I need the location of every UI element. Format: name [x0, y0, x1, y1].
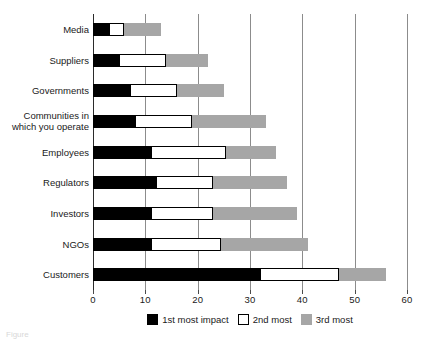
bar-row: [93, 54, 407, 67]
bar-segment: [130, 84, 177, 97]
bar-row: [93, 238, 407, 251]
x-axis-tick-label: 60: [387, 294, 427, 305]
chart-plot-area: [93, 14, 407, 290]
stacked-bar-chart: MediaSuppliersGovernmentsCommunities in …: [0, 0, 434, 344]
bar-segment: [260, 268, 339, 281]
bar-segment: [213, 207, 297, 220]
legend-swatch-icon: [301, 314, 312, 325]
bar-segment: [192, 115, 265, 128]
bar-segment: [151, 207, 214, 220]
bar-segment: [221, 238, 307, 251]
bar-segment: [124, 23, 161, 36]
legend-swatch-icon: [238, 314, 249, 325]
bar-row: [93, 176, 407, 189]
category-label: Governments: [3, 85, 89, 96]
bar-segment: [93, 54, 119, 67]
legend-item: 1st most impact: [147, 314, 229, 325]
bar-segment: [93, 146, 151, 159]
legend-label: 3rd most: [316, 314, 353, 325]
bar-segment: [151, 238, 222, 251]
bar-segment: [151, 146, 227, 159]
bar-segment: [93, 207, 151, 220]
bar-segment: [93, 176, 156, 189]
bar-segment: [166, 54, 208, 67]
bar-segment: [93, 238, 151, 251]
legend-item: 2nd most: [238, 314, 292, 325]
gridline-60: [407, 14, 408, 290]
category-label: Employees: [3, 147, 89, 158]
bar-segment: [93, 115, 135, 128]
category-label: Suppliers: [3, 55, 89, 66]
legend-swatch-icon: [147, 314, 158, 325]
category-label: Regulators: [3, 177, 89, 188]
category-label: NGOs: [3, 239, 89, 250]
bar-segment: [119, 54, 166, 67]
x-axis-tick-label: 0: [73, 294, 113, 305]
figure-caption: Figure: [6, 330, 29, 339]
legend-label: 2nd most: [253, 314, 292, 325]
bar-row: [93, 268, 407, 281]
bar-row: [93, 146, 407, 159]
bar-row: [93, 207, 407, 220]
legend-item: 3rd most: [301, 314, 353, 325]
bar-segment: [109, 23, 125, 36]
category-label: Investors: [3, 208, 89, 219]
x-axis-tick-label: 30: [230, 294, 270, 305]
bar-segment: [135, 115, 193, 128]
bar-row: [93, 115, 407, 128]
category-label: Communities in which you operate: [3, 110, 89, 132]
x-axis-tick-label: 40: [282, 294, 322, 305]
bar-segment: [226, 146, 276, 159]
bar-segment: [213, 176, 286, 189]
chart-legend: 1st most impact2nd most3rd most: [93, 311, 407, 327]
bar-segment: [339, 268, 386, 281]
x-axis-tick-label: 50: [335, 294, 375, 305]
bar-row: [93, 23, 407, 36]
bar-segment: [177, 84, 224, 97]
legend-label: 1st most impact: [162, 314, 229, 325]
bar-segment: [93, 84, 130, 97]
y-axis-category-labels: MediaSuppliersGovernmentsCommunities in …: [0, 14, 89, 290]
bar-segment: [93, 268, 260, 281]
bar-row: [93, 84, 407, 97]
bar-segment: [93, 23, 109, 36]
bar-segment: [156, 176, 214, 189]
category-label: Customers: [3, 269, 89, 280]
x-axis-tick-label: 20: [178, 294, 218, 305]
category-label: Media: [3, 24, 89, 35]
x-axis-tick-label: 10: [125, 294, 165, 305]
